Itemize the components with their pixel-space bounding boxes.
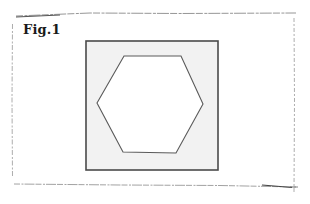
frame-bottom-edge xyxy=(14,184,296,187)
frame-right-edge xyxy=(294,18,295,192)
frame-left-edge xyxy=(12,24,13,178)
figure-label: Fig.1 xyxy=(23,22,61,37)
